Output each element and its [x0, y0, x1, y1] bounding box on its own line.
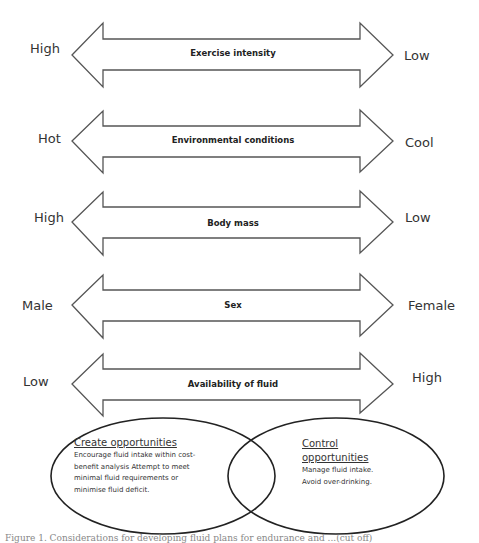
arrow-right-label: High: [412, 370, 442, 385]
control-opportunities-title: opportunities: [302, 451, 412, 465]
control-opportunities-block: Control opportunities Manage fluid intak…: [302, 437, 412, 488]
control-opportunities-line: Manage fluid intake.: [302, 465, 412, 477]
control-opportunities-title: Control: [302, 437, 412, 451]
arrow-label: Body mass: [207, 218, 259, 228]
arrow-label: Environmental conditions: [172, 135, 295, 145]
create-opportunities-line: minimal fluid requirements or: [74, 473, 224, 485]
control-opportunities-line: Avoid over-drinking.: [302, 477, 412, 489]
arrow-right-label: Cool: [405, 135, 434, 150]
arrow-right-label: Female: [408, 298, 455, 313]
figure-caption: Figure 1. Considerations for developing …: [5, 533, 372, 543]
arrow-left-label: Low: [23, 374, 49, 389]
create-opportunities-line: minimise fluid deficit.: [74, 485, 224, 497]
create-opportunities-title: Create opportunities: [74, 436, 224, 450]
arrow-label: Sex: [224, 300, 241, 310]
arrow-left-label: High: [34, 210, 64, 225]
arrow-left-label: Male: [22, 298, 53, 313]
arrow-left-label: High: [30, 41, 60, 56]
arrow-right-label: Low: [405, 210, 431, 225]
arrow-right-label: Low: [404, 48, 430, 63]
create-opportunities-block: Create opportunities Encourage fluid int…: [74, 436, 224, 496]
create-opportunities-line: benefit analysis Attempt to meet: [74, 462, 224, 474]
arrow-left-label: Hot: [38, 131, 61, 146]
create-opportunities-line: Encourage fluid intake within cost-: [74, 450, 224, 462]
arrow-label: Availability of fluid: [188, 379, 278, 389]
arrow-label: Exercise intensity: [190, 48, 275, 58]
